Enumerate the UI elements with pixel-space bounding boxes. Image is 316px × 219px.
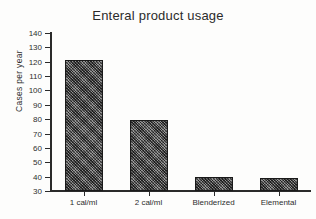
x-tick-label: Blenderized xyxy=(192,198,234,207)
y-tick-label: 50 xyxy=(33,158,42,167)
plot-area xyxy=(51,33,311,191)
y-tick-label: 90 xyxy=(33,100,42,109)
bar-1-cal-ml xyxy=(65,60,103,191)
y-tick-label: 130 xyxy=(29,43,42,52)
y-tick-label: 110 xyxy=(29,72,42,81)
y-tick-label: 40 xyxy=(33,172,42,181)
y-tick-label: 70 xyxy=(33,129,42,138)
bar-2-cal-ml xyxy=(130,120,168,191)
chart-title: Enteral product usage xyxy=(0,8,316,23)
y-tick-label: 100 xyxy=(29,86,42,95)
x-tick-label: 1 cal/ml xyxy=(70,198,98,207)
y-tick-label: 80 xyxy=(33,115,42,124)
x-tick-mark xyxy=(149,192,150,196)
bar-elemental xyxy=(260,178,298,191)
chart-figure: Enteral product usage Cases per year 304… xyxy=(0,0,316,219)
y-tick-label: 30 xyxy=(33,187,42,196)
y-tick-label: 140 xyxy=(29,29,42,38)
x-tick-label: 2 cal/ml xyxy=(135,198,163,207)
y-axis-title: Cases per year xyxy=(14,50,24,112)
x-tick-mark xyxy=(279,192,280,196)
bar-blenderized xyxy=(195,177,233,191)
x-tick-mark xyxy=(84,192,85,196)
y-tick-mark xyxy=(45,191,51,192)
x-tick-mark xyxy=(214,192,215,196)
x-tick-label: Elemental xyxy=(261,198,297,207)
y-tick-label: 120 xyxy=(29,57,42,66)
y-tick-label: 60 xyxy=(33,143,42,152)
